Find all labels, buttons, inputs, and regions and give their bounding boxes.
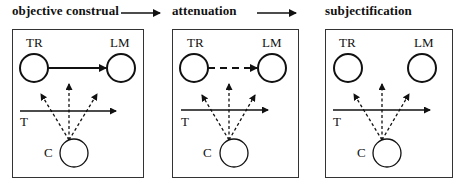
construal-arrows-icon [202, 84, 255, 140]
conceptualizer-circle [220, 139, 248, 167]
tr-label: TR [339, 35, 356, 50]
panel-objective-construal: TR LM T C [13, 30, 144, 178]
panel-attenuation: TR LM T C [173, 30, 299, 178]
landmark-circle [258, 54, 286, 82]
landmark-circle [107, 54, 135, 82]
time-label: T [20, 114, 28, 129]
conceptualizer-circle [60, 139, 88, 167]
lm-label: LM [110, 35, 130, 50]
landmark-circle [408, 54, 436, 82]
trajector-circle [20, 54, 48, 82]
lm-label: LM [262, 35, 282, 50]
conceptualizer-label: C [357, 145, 366, 160]
subjectification-diagram: TR LM T C TR LM T C TR LM [0, 0, 458, 187]
tr-label: TR [26, 35, 43, 50]
time-label: T [333, 114, 341, 129]
tr-label: TR [187, 35, 204, 50]
trajector-circle [334, 54, 362, 82]
conceptualizer-circle [373, 139, 401, 167]
trajector-circle [180, 54, 208, 82]
panel-subjectification: TR LM T C [326, 30, 453, 178]
conceptualizer-label: C [44, 145, 53, 160]
construal-arrows-icon [41, 84, 97, 140]
time-label: T [181, 114, 189, 129]
construal-arrows-icon [354, 84, 409, 140]
conceptualizer-label: C [203, 145, 212, 160]
lm-label: LM [414, 35, 434, 50]
